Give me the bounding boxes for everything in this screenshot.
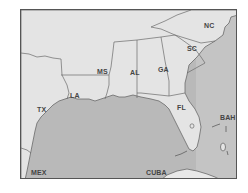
label-sc: SC (187, 45, 197, 52)
map-graphic (21, 10, 237, 179)
label-ms: MS (97, 68, 108, 75)
label-cuba: CUBA (146, 169, 167, 176)
label-mex: MEX (31, 169, 46, 176)
label-bah: BAH (220, 114, 235, 121)
label-fl: FL (177, 104, 186, 111)
label-tx: TX (37, 106, 46, 113)
label-ga: GA (158, 66, 169, 73)
label-la: LA (70, 92, 80, 99)
label-al: AL (130, 69, 140, 76)
bahamas-island-3 (221, 143, 226, 151)
label-nc: NC (204, 22, 214, 29)
map-frame: NC SC GA AL MS LA TX FL BAH MEX CUBA (20, 9, 237, 179)
